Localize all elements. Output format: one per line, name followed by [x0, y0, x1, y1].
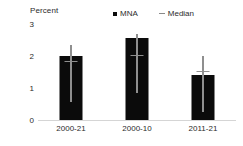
legend-item-median: Median: [159, 9, 194, 18]
legend-label-median: Median: [168, 9, 194, 18]
legend-label-mna: MNA: [120, 9, 138, 18]
x-tick-label: 2011-21: [170, 124, 236, 133]
chart-container: Percent MNA Median 0123 2000-212000-1020…: [0, 0, 243, 146]
y-tick-label: 0: [22, 116, 34, 125]
legend-square-icon: [113, 12, 117, 16]
x-tick-label: 2000-10: [104, 124, 170, 133]
median-marker: [65, 61, 78, 62]
legend-item-mna: MNA: [113, 9, 138, 18]
x-tick-label: 2000-21: [38, 124, 104, 133]
bar-group: [38, 24, 104, 120]
bar-group: [170, 24, 236, 120]
chart-legend: MNA Median: [113, 9, 194, 18]
bar-group: [104, 24, 170, 120]
error-bar: [70, 45, 72, 103]
error-bar: [202, 56, 204, 112]
y-axis-title: Percent: [30, 6, 58, 15]
plot-area: [38, 24, 236, 120]
median-marker: [197, 71, 210, 72]
legend-dash-icon: [159, 13, 165, 14]
y-tick-label: 3: [22, 20, 34, 29]
x-axis-line: [38, 120, 236, 121]
y-tick-label: 2: [22, 52, 34, 61]
error-bar: [136, 34, 138, 93]
median-marker: [131, 55, 144, 56]
y-tick-label: 1: [22, 84, 34, 93]
